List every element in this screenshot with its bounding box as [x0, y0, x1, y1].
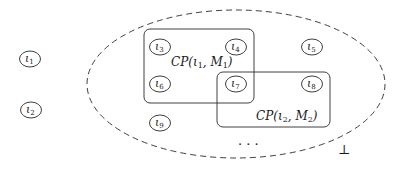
- node-iota5: ι5: [302, 39, 323, 55]
- node-iota8: ι8: [302, 76, 323, 92]
- cp1-label: CP(ι1, M1): [171, 55, 233, 70]
- node-iota1: ι1: [20, 51, 41, 67]
- node-iota9: ι9: [150, 115, 171, 131]
- node-iota6: ι6: [150, 76, 171, 92]
- node-iota7: ι7: [226, 76, 247, 92]
- diagram-canvas: CP(ι1, M1)CP(ι2, M2) ι1ι2ι3ι4ι5ι6ι7ι8ι9 …: [0, 0, 404, 170]
- node-iota2: ι2: [21, 102, 42, 118]
- ellipsis-text: · · ·: [238, 137, 259, 152]
- bottom-symbol: ⊥: [338, 142, 350, 157]
- node-iota4: ι4: [226, 39, 247, 55]
- cp2-label: CP(ι2, M2): [256, 109, 318, 124]
- node-iota3: ι3: [150, 39, 171, 55]
